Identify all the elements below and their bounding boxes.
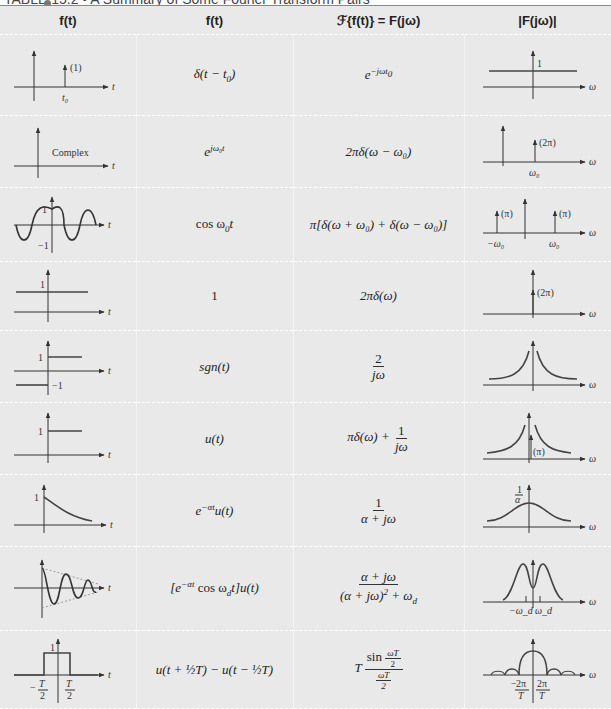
transform-cosine: π[δ(ω + ω₀) + δ(ω − ω₀)] (293, 188, 464, 262)
svg-text:1: 1 (34, 492, 39, 503)
header-time-plot: f(t) (0, 6, 136, 35)
table-row: Complex t ejω₀t 2πδ(ω − ω₀) (2π) ω₀ ω (0, 116, 611, 188)
svg-text:T: T (518, 690, 525, 701)
transform-signum: 2jω (293, 331, 464, 403)
decay-plot-icon: 1 t (8, 481, 128, 541)
svg-text:1: 1 (42, 204, 47, 215)
svg-text:t: t (112, 81, 115, 92)
complex-plot-icon: Complex t (8, 122, 128, 182)
svg-text:1: 1 (38, 426, 43, 437)
transform-unit-step: πδ(ω) + 1jω (293, 403, 464, 475)
svg-text:1: 1 (50, 642, 55, 653)
time-function-rectangular-pulse: u(t + ½T) − u(t − ½T) (136, 631, 293, 709)
svg-text:ω: ω (589, 596, 596, 607)
svg-text:Complex: Complex (52, 147, 89, 158)
time-plot-constant: 1 t (0, 262, 136, 331)
magnitude-plot-shifted-impulse: 1 ω (464, 35, 611, 116)
magnitude-plot-complex-exponential: (2π) ω₀ ω (464, 116, 611, 188)
double-delta-plot-icon: (π) (π) −ω₀ ω₀ ω (473, 195, 603, 255)
svg-text:ω: ω (589, 453, 596, 464)
svg-text:t₀: t₀ (62, 92, 69, 103)
svg-text:1: 1 (38, 352, 43, 363)
transform-decaying-exponential: 1α + jω (293, 475, 464, 547)
svg-text:ω: ω (589, 227, 596, 238)
magnitude-plot-decaying-exponential: 1 α ω (464, 475, 611, 547)
transform-complex-exponential: 2πδ(ω − ω₀) (293, 116, 464, 188)
svg-text:−ω₀: −ω₀ (487, 238, 505, 249)
magnitude-plot-rectangular-pulse: − 2π T 2π T ω (464, 631, 611, 709)
svg-text:t: t (108, 449, 111, 460)
time-plot-damped-cosine: t (0, 547, 136, 631)
svg-text:(π): (π) (533, 446, 545, 458)
damped-cosine-plot-icon: t (8, 556, 128, 622)
fourier-pairs-table: f(t) f(t) ℱ{f(t)} = F(jω) |F(jω)| (1) t₀… (0, 6, 611, 709)
header-time-function: f(t) (136, 6, 293, 35)
flat-magnitude-plot-icon: 1 ω (473, 45, 603, 105)
table-row: 1 t u(t) πδ(ω) + 1jω (π) ω (0, 403, 611, 475)
svg-text:1: 1 (40, 279, 45, 290)
magnitude-plot-cosine: (π) (π) −ω₀ ω₀ ω (464, 188, 611, 262)
time-function-cosine: cos ω0t (136, 188, 293, 262)
svg-text:−ω_d: −ω_d (509, 605, 534, 616)
svg-text:2π: 2π (537, 678, 547, 689)
step-magnitude-plot-icon: (π) ω (473, 409, 603, 469)
svg-text:t: t (108, 582, 111, 593)
table-row: 1 −1 t sgn(t) 2jω ω (0, 331, 611, 403)
svg-text:T: T (39, 678, 46, 689)
time-function-shifted-impulse: δ(t − t0) (136, 35, 293, 116)
svg-text:t: t (108, 306, 111, 317)
svg-text:ω: ω (589, 81, 596, 92)
time-function-signum: sgn(t) (136, 331, 293, 403)
bimodal-magnitude-plot-icon: −ω_d ω_d ω (473, 556, 603, 622)
svg-text:ω: ω (589, 669, 596, 680)
cosine-plot-icon: 1 −1 t (8, 193, 128, 257)
svg-text:ω: ω (589, 308, 596, 319)
magnitude-plot-signum: ω (464, 331, 611, 403)
svg-text:(2π): (2π) (537, 287, 554, 299)
svg-text:−1: −1 (38, 240, 49, 251)
time-plot-complex-exponential: Complex t (0, 116, 136, 188)
time-plot-decaying-exponential: 1 t (0, 475, 136, 547)
header-row: f(t) f(t) ℱ{f(t)} = F(jω) |F(jω)| (0, 6, 611, 35)
time-plot-signum: 1 −1 t (0, 331, 136, 403)
time-plot-shifted-impulse: (1) t₀ t (0, 35, 136, 116)
table-row: (1) t₀ t δ(t − t0) e−jωt0 1 ω (0, 35, 611, 116)
magnitude-plot-damped-cosine: −ω_d ω_d ω (464, 547, 611, 631)
svg-text:ω: ω (589, 379, 596, 390)
svg-text:−1: −1 (52, 380, 63, 391)
svg-text:T: T (539, 690, 546, 701)
svg-text:t: t (112, 160, 115, 171)
sinc-magnitude-plot-icon: − 2π T 2π T ω (473, 635, 603, 705)
svg-text:ω: ω (589, 156, 596, 167)
impulse-plot-icon: (1) t₀ t (8, 45, 128, 105)
svg-text:2π: 2π (516, 678, 526, 689)
svg-text:ω_d: ω_d (535, 605, 553, 616)
transform-constant: 2πδ(ω) (293, 262, 464, 331)
magnitude-plot-constant: (2π) ω (464, 262, 611, 331)
time-function-damped-cosine: [e−αt cos ωdt]u(t) (136, 547, 293, 631)
center-delta-plot-icon: (2π) ω (473, 266, 603, 326)
svg-text:2: 2 (67, 690, 72, 701)
svg-text:t: t (110, 519, 113, 530)
header-transform: ℱ{f(t)} = F(jω) (293, 6, 464, 35)
time-function-decaying-exponential: e−αtu(t) (136, 475, 293, 547)
transform-shifted-impulse: e−jωt0 (293, 35, 464, 116)
svg-text:(2π): (2π) (539, 137, 556, 149)
svg-text:(π): (π) (559, 208, 571, 220)
magnitude-plot-unit-step: (π) ω (464, 403, 611, 475)
signum-plot-icon: 1 −1 t (8, 337, 128, 397)
shifted-delta-plot-icon: (2π) ω₀ ω (473, 122, 603, 182)
table-row: t [e−αt cos ωdt]u(t) α + jω(α + jω)2 + ω… (0, 547, 611, 631)
table-row: 1 t e−αtu(t) 1α + jω 1 α ω (0, 475, 611, 547)
svg-text:t: t (108, 365, 111, 376)
header-magnitude: |F(jω)| (464, 6, 611, 35)
time-function-constant: 1 (136, 262, 293, 331)
time-function-unit-step: u(t) (136, 403, 293, 475)
svg-text:(π): (π) (501, 208, 513, 220)
unit-step-plot-icon: 1 t (8, 409, 128, 469)
time-plot-cosine: 1 −1 t (0, 188, 136, 262)
svg-text:t: t (108, 669, 111, 680)
transform-rectangular-pulse: T sin ωT2 ωT2 (293, 631, 464, 709)
time-function-complex-exponential: ejω₀t (136, 116, 293, 188)
table-row: 1 −1 t cos ω0t π[δ(ω + ω₀) + δ(ω − ω₀)] … (0, 188, 611, 262)
